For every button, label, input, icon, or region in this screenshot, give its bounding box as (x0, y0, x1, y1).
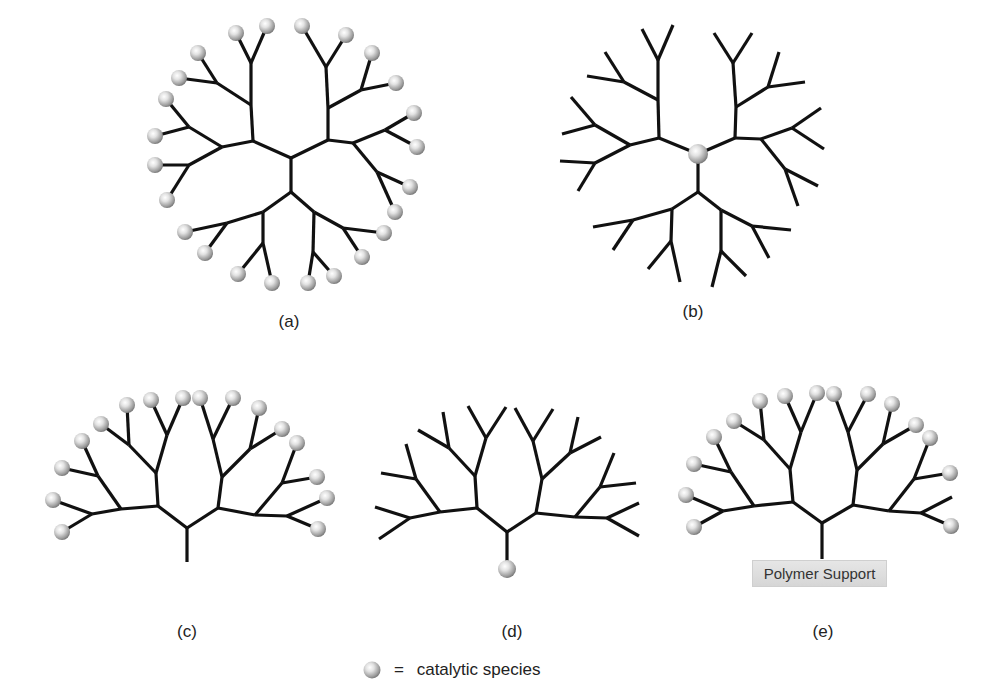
bond-line (560, 161, 595, 163)
catalytic-species-sphere (300, 275, 316, 291)
bond-line (735, 138, 761, 139)
catalytic-species-sphere (409, 139, 425, 155)
bond-line (449, 448, 475, 476)
bond-line (754, 502, 793, 506)
catalytic-species-sphere (943, 518, 959, 534)
bond-line (475, 438, 486, 476)
catalytic-species-sphere (294, 18, 310, 34)
bond-line (251, 105, 253, 141)
catalytic-species-sphere (826, 386, 842, 402)
bond-line (158, 506, 187, 528)
catalytic-species-sphere (809, 385, 825, 401)
bond-line (129, 445, 156, 473)
bond-line (630, 138, 659, 145)
bond-line (253, 141, 291, 158)
bond-line (698, 192, 721, 210)
bond-line (156, 435, 167, 473)
catalytic-species-sphere (354, 249, 370, 265)
bond-line (410, 512, 440, 518)
catalytic-species-sphere (228, 25, 244, 41)
bond-line (642, 29, 658, 60)
catalytic-species-sphere (860, 386, 876, 402)
catalytic-species-sphere (498, 560, 516, 578)
bond-line (443, 412, 449, 448)
catalytic-species-sphere (54, 460, 70, 476)
catalytic-species-sphere (230, 266, 246, 282)
bond-line (328, 140, 353, 143)
bond-line (733, 33, 752, 63)
bond-line (792, 108, 821, 128)
catalytic-species-sphere (326, 268, 342, 284)
bond-line (714, 33, 733, 63)
bond-line (857, 444, 883, 470)
bond-line (121, 506, 158, 509)
catalytic-species-sphere (251, 400, 267, 416)
catalytic-species-sphere (147, 157, 163, 173)
catalytic-species-sphere (688, 144, 708, 164)
bond-line (255, 483, 282, 515)
catalytic-species-sphere (402, 179, 418, 195)
catalytic-species-sphere (54, 524, 70, 540)
bond-line (533, 441, 542, 479)
bond-line (379, 518, 410, 539)
bond-line (263, 192, 291, 212)
bond-line (255, 515, 287, 516)
bond-line (218, 508, 255, 515)
catalytic-species-sphere (175, 390, 191, 406)
catalytic-species-sphere (338, 27, 354, 43)
bond-line (587, 76, 624, 82)
bond-line (578, 163, 595, 191)
bond-line (721, 251, 746, 276)
bond-line (593, 220, 633, 227)
bond-line (624, 82, 658, 100)
bond-line (326, 67, 328, 108)
bond-line (648, 241, 671, 269)
legend-equals: = (394, 660, 404, 679)
catalytic-species-sphere (388, 75, 404, 91)
bond-line (600, 453, 614, 487)
bond-line (381, 473, 416, 479)
catalytic-species-sphere (942, 465, 958, 481)
catalytic-species-sphere (726, 413, 742, 429)
catalytic-species-sphere (309, 469, 325, 485)
bond-line (217, 83, 251, 105)
catalytic-species-sphere (289, 435, 305, 451)
bond-line (313, 212, 314, 252)
bond-line (761, 128, 792, 139)
catalytic-species-sphere (259, 18, 275, 34)
bond-line (633, 209, 672, 220)
bond-line (507, 513, 536, 532)
legend-text: catalytic species (417, 660, 541, 679)
bond-line (418, 430, 449, 448)
bond-line (752, 226, 791, 230)
bond-line (533, 409, 553, 441)
bond-line (189, 127, 222, 147)
dendron-d-focal-point-functionalized (375, 406, 639, 578)
bond-line (736, 87, 768, 107)
bond-line (291, 140, 328, 158)
bond-line (291, 192, 314, 212)
bond-line (721, 210, 752, 226)
bond-line (187, 508, 218, 528)
catalytic-species-sphere (364, 45, 380, 61)
bond-line (790, 432, 801, 469)
catalytic-species-sphere (147, 128, 163, 144)
bond-line (353, 130, 385, 143)
bond-line (92, 509, 121, 514)
catalytic-species-sphere (406, 105, 422, 121)
bond-line (600, 483, 636, 487)
bond-line (764, 440, 790, 469)
panel-label-b: (b) (683, 302, 704, 322)
catalytic-species-sphere (387, 204, 403, 220)
bond-line (440, 508, 477, 512)
catalytic-species-sphere (45, 492, 61, 508)
panel-label-a: (a) (279, 312, 300, 332)
bond-line (793, 502, 822, 523)
catalytic-species-sphere (159, 192, 175, 208)
bond-line (515, 408, 533, 441)
catalytic-species-sphere (310, 521, 326, 537)
bond-line (792, 128, 824, 149)
polymer-support-box: Polymer Support (752, 560, 887, 587)
dendrimer-a-periphery-functionalized (147, 18, 425, 291)
dendrimer-b-core-functionalized (560, 25, 824, 287)
